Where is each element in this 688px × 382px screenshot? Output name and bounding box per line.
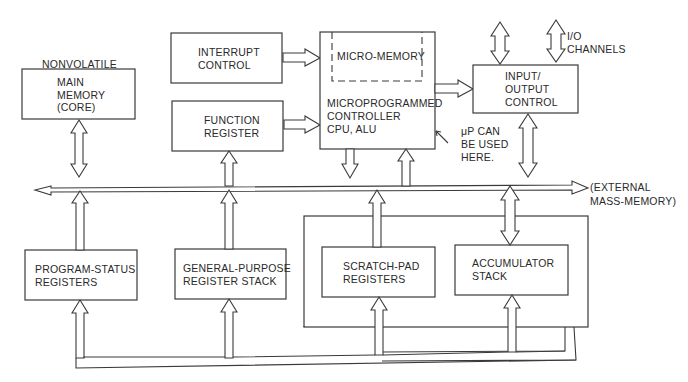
accumulator-label-1: ACCUMULATOR [472, 257, 554, 270]
micro-memory-label: MICRO-MEMORY [337, 50, 425, 63]
main-memory-caption: NONVOLATILE [42, 58, 117, 71]
up-note-line-3: HERE. [461, 151, 494, 164]
external-mass-memory-line-2: MASS-MEMORY) [590, 195, 676, 208]
up-note-pointer [436, 131, 448, 143]
io-to-bus-arrow [519, 114, 537, 177]
main-memory-label-1: MAIN [57, 76, 84, 89]
io-channels-line-2: CHANNELS [567, 43, 626, 56]
interrupt-to-controller-arrow [283, 49, 320, 66]
io-control-label-2: OUTPUT [505, 83, 549, 96]
program-status-label-2: REGISTERS [35, 276, 97, 289]
feedback-loop-inner [84, 351, 565, 358]
scratch-pad-label-2: REGISTERS [343, 273, 405, 286]
main-memory-bus-arrow [71, 120, 87, 177]
interrupt-control-label-2: CONTROL [198, 59, 251, 72]
io-channel-arrow-2 [547, 20, 565, 62]
enclosure-loop-outer [304, 326, 565, 352]
controller-label-1: MICROPROGRAMMED [327, 97, 443, 110]
scratch-pad-label-1: SCRATCH-PAD [343, 260, 419, 273]
bus-to-function-arrow [221, 151, 237, 186]
controller-to-io-arrow [435, 80, 473, 97]
function-register-label-1: FUNCTION [204, 114, 260, 127]
loop-to-general-purpose-arrow [221, 299, 237, 358]
function-register-label-2: REGISTER [204, 127, 259, 140]
bus-to-controller-arrow [398, 149, 414, 186]
io-channels-line-1: I/O [567, 30, 582, 43]
controller-label-2: CONTROLLER [327, 110, 401, 123]
up-note-line-2: BE USED [461, 138, 509, 151]
program-status-label-1: PROGRAM-STATUS [35, 263, 135, 276]
io-channel-arrow-1 [491, 22, 509, 64]
feedback-loop-outer [76, 358, 576, 368]
accumulator-label-2: STACK [472, 270, 507, 283]
io-control-label-3: CONTROL [505, 96, 558, 109]
program-status-to-bus-arrow [72, 191, 88, 250]
general-purpose-to-bus-arrow [221, 190, 237, 249]
external-mass-memory-line-1: (EXTERNAL [590, 181, 651, 194]
interrupt-control-label-1: INTERRUPT [198, 46, 260, 59]
up-note-line-1: μP CAN [461, 125, 500, 138]
io-control-label-1: INPUT/ [505, 70, 541, 83]
enclosure-loop-inner [382, 327, 576, 361]
function-to-controller-arrow [284, 116, 320, 133]
controller-label-3: CPU, ALU [327, 123, 376, 136]
main-memory-label-3: (CORE) [57, 101, 96, 114]
general-purpose-label-2: REGISTER STACK [183, 275, 277, 288]
loop-to-program-status-arrow [72, 300, 88, 358]
general-purpose-label-1: GENERAL-PURPOSE [183, 262, 291, 275]
controller-to-bus-arrow [342, 149, 358, 178]
